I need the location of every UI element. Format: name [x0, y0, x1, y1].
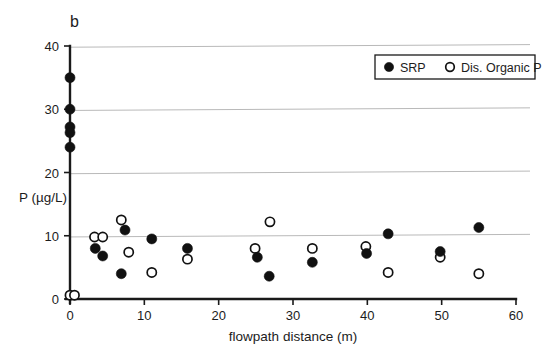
x-tick-label-40: 40: [360, 308, 374, 323]
data-point-dis-organic-p-14: [474, 269, 483, 278]
data-point-srp-9: [147, 234, 157, 244]
data-point-dis-organic-p-7: [183, 255, 192, 264]
data-point-dis-organic-p-1: [70, 291, 79, 300]
y-axis-title: P (µg/L): [19, 190, 67, 205]
x-axis-title: flowpath distance (m): [229, 329, 357, 344]
gridline-y-40: [70, 45, 530, 48]
data-point-srp-12: [264, 271, 274, 281]
data-point-dis-organic-p-3: [98, 232, 107, 241]
y-tick-label-20: 20: [45, 166, 59, 181]
panel-label: b: [70, 13, 79, 30]
data-point-dis-organic-p-12: [384, 268, 393, 277]
data-point-srp-7: [116, 269, 126, 279]
legend: SRP Dis. Organic P: [375, 55, 542, 79]
y-tick-label-0: 0: [52, 292, 59, 307]
data-point-srp-16: [435, 247, 445, 257]
gridline-y-10: [70, 234, 530, 237]
y-tick-label-40: 40: [45, 39, 59, 54]
data-point-srp-17: [474, 223, 484, 233]
data-point-dis-organic-p-10: [308, 244, 317, 253]
legend-marker-open-circle: [446, 63, 455, 72]
data-points: [65, 73, 484, 300]
data-point-dis-organic-p-9: [265, 217, 274, 226]
legend-label-srp: SRP: [400, 61, 426, 75]
data-point-dis-organic-p-5: [124, 248, 133, 257]
data-point-srp-13: [307, 257, 317, 267]
data-point-srp-0: [65, 73, 75, 83]
data-point-dis-organic-p-6: [147, 268, 156, 277]
legend-marker-filled-circle: [384, 62, 393, 71]
axis-ticks: [64, 46, 516, 305]
figure-panel: 0102030405060010203040 b flowpath distan…: [0, 0, 547, 359]
x-tick-label-20: 20: [211, 308, 225, 323]
x-tick-label-50: 50: [434, 308, 448, 323]
x-tick-label-30: 30: [286, 308, 300, 323]
data-point-dis-organic-p-4: [117, 215, 126, 224]
gridline-y-20: [70, 171, 530, 174]
data-point-srp-10: [182, 243, 192, 253]
legend-label-dis-organic-p: Dis. Organic P: [461, 61, 542, 75]
data-point-srp-3: [65, 128, 75, 138]
y-tick-label-30: 30: [45, 102, 59, 117]
data-point-srp-14: [362, 248, 372, 258]
x-tick-label-0: 0: [66, 308, 73, 323]
gridline-y-30: [70, 108, 530, 111]
data-point-srp-1: [65, 104, 75, 114]
data-point-srp-6: [98, 251, 108, 261]
data-point-srp-8: [120, 225, 130, 235]
data-point-srp-5: [90, 243, 100, 253]
x-tick-label-10: 10: [137, 308, 151, 323]
data-point-srp-15: [383, 229, 393, 239]
axes: [66, 46, 516, 303]
data-point-srp-11: [252, 252, 262, 262]
axis-tick-labels: 0102030405060010203040: [45, 39, 524, 323]
data-point-dis-organic-p-8: [250, 244, 259, 253]
x-tick-label-60: 60: [509, 308, 523, 323]
y-tick-label-10: 10: [45, 229, 59, 244]
data-point-srp-4: [65, 142, 75, 152]
scatter-plot: 0102030405060010203040 b flowpath distan…: [0, 0, 547, 359]
